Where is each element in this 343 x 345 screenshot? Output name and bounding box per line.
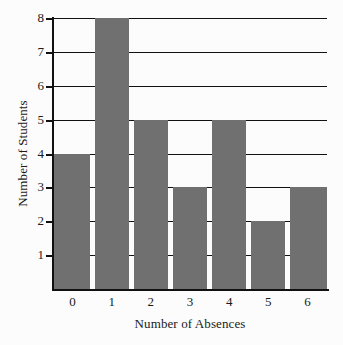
x-tick-label: 6 xyxy=(295,294,319,310)
y-tick-label: 7 xyxy=(18,45,44,58)
bar xyxy=(53,154,90,290)
y-axis-line xyxy=(52,17,54,291)
x-tick-label: 3 xyxy=(178,294,202,310)
plot-area xyxy=(53,18,327,289)
y-tick-label: 8 xyxy=(18,11,44,24)
x-axis-line xyxy=(52,289,329,291)
bar xyxy=(290,187,327,289)
x-axis-title: Number of Absences xyxy=(53,316,327,332)
bar xyxy=(212,120,246,289)
bar-chart: Number of Students 1 2 3 4 5 6 7 8 0 1 2… xyxy=(0,0,343,345)
x-tick-label: 5 xyxy=(256,294,280,310)
bar xyxy=(134,120,168,289)
bar xyxy=(251,221,285,289)
y-tick-label: 1 xyxy=(18,248,44,261)
y-tick-label: 6 xyxy=(18,79,44,92)
x-tick-label: 1 xyxy=(100,294,124,310)
y-tick-label: 5 xyxy=(18,113,44,126)
y-tick-label: 4 xyxy=(18,147,44,160)
bar xyxy=(95,18,129,289)
x-tick-label: 2 xyxy=(139,294,163,310)
y-tick-label: 3 xyxy=(18,180,44,193)
x-tick-label: 0 xyxy=(61,294,85,310)
y-tick-label: 2 xyxy=(18,214,44,227)
bars-group xyxy=(53,18,327,289)
x-tick-label: 4 xyxy=(217,294,241,310)
bar xyxy=(173,187,207,289)
